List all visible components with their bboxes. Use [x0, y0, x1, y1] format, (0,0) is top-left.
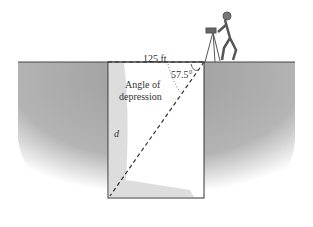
width-label: 125 ft [143, 53, 167, 64]
angle-name-line1: Angle of [125, 79, 160, 90]
angle-name-line2: depression [119, 91, 162, 102]
diagram-graphic [0, 0, 313, 227]
figure: 125 ft 57.5° Angle of depression d [0, 0, 313, 227]
depth-label: d [114, 128, 119, 139]
angle-value-label: 57.5° [171, 69, 193, 80]
surveyor-icon [205, 12, 236, 62]
